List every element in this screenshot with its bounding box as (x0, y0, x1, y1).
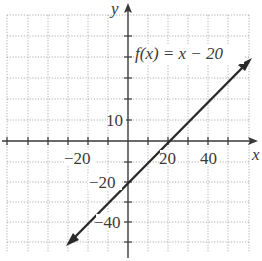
x-tick-label-20: 20 (159, 149, 176, 168)
axes (2, 3, 258, 258)
function-label: f(x) = x − 20 (135, 44, 224, 63)
function-graph: y x f(x) = x − 20 10 −20 20 40 −20 −40 (0, 0, 262, 261)
x-axis-label: x (251, 145, 260, 164)
y-axis-label: y (109, 0, 119, 18)
x-tick-label-40: 40 (200, 149, 217, 168)
y-tick-label-10: 10 (106, 111, 123, 130)
x-tick-label-neg20: −20 (64, 149, 91, 168)
ticks (7, 36, 228, 242)
y-tick-label-neg40: −40 (94, 213, 121, 232)
y-tick-label-neg20: −20 (89, 173, 116, 192)
